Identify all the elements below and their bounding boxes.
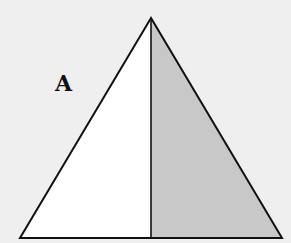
- triangle-label: A: [55, 72, 72, 94]
- triangle-diagram: [0, 0, 291, 243]
